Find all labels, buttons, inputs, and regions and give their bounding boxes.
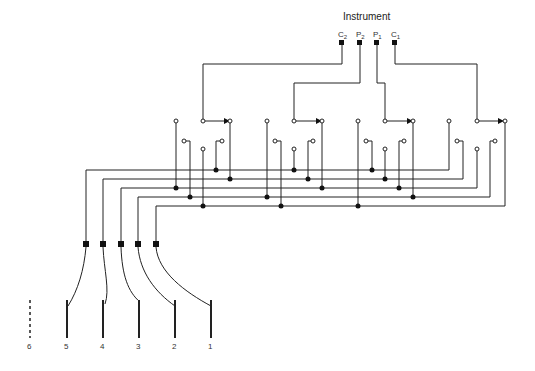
terminal-p2-label: P2 — [356, 30, 365, 40]
terminal-p2 — [357, 40, 362, 45]
electrode-label: 1 — [208, 342, 213, 351]
electrode-cables — [68, 247, 211, 306]
terminal-c2-label: C2 — [338, 30, 348, 40]
switch-group-4 — [86, 118, 507, 206]
instrument-terminals: C2 P2 P1 C1 — [338, 30, 401, 45]
switch-group-2 — [265, 118, 324, 206]
electrode-label: 3 — [136, 342, 141, 351]
electrode-label: 2 — [172, 342, 177, 351]
terminal-p1-label: P1 — [373, 30, 382, 40]
terminal-c2 — [339, 40, 344, 45]
instrument-leads — [203, 45, 477, 120]
terminal-c1-label: C1 — [391, 30, 401, 40]
bus-lines — [86, 170, 156, 243]
electrodes — [30, 300, 211, 338]
terminal-p1 — [374, 40, 379, 45]
electrode-labels: 6 5 4 3 2 1 — [27, 342, 213, 351]
switch-group-1 — [174, 118, 232, 206]
electrode-label: 6 — [27, 342, 32, 351]
electrode-switching-diagram: Instrument C2 P2 P1 C1 — [0, 0, 535, 371]
electrode-label: 4 — [100, 342, 105, 351]
terminal-c1 — [392, 40, 397, 45]
instrument-title: Instrument — [343, 11, 390, 22]
connector-blocks — [83, 241, 159, 247]
electrode-label: 5 — [64, 342, 69, 351]
switch-group-3 — [356, 118, 415, 206]
